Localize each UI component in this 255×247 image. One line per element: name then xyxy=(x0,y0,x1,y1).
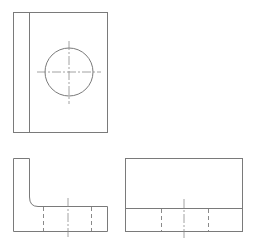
orthographic-drawing xyxy=(0,0,255,247)
top-view xyxy=(14,13,108,133)
front-view-outline xyxy=(14,159,108,232)
drawing-canvas xyxy=(0,0,255,247)
front-view xyxy=(14,159,108,240)
side-view xyxy=(126,159,243,240)
